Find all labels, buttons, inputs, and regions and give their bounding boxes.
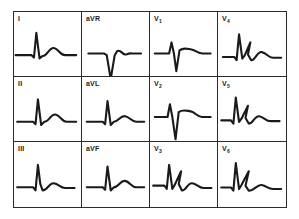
ecg-trace-v6 xyxy=(218,142,286,207)
ecg-waveform-path xyxy=(155,104,211,139)
lead-cell-v4: V4 xyxy=(218,12,286,77)
ecg-trace-i xyxy=(14,12,81,76)
lead-cell-avf: aVF xyxy=(82,142,150,207)
ecg-waveform-path xyxy=(153,165,211,191)
ecg-trace-v2 xyxy=(150,77,217,141)
ecg-waveform-path xyxy=(221,163,281,191)
ecg-waveform-path xyxy=(17,165,74,191)
lead-cell-v6: V6 xyxy=(218,142,286,207)
ecg-waveform-path xyxy=(155,42,211,71)
lead-cell-v2: V2 xyxy=(150,77,218,142)
ecg-waveform-path xyxy=(87,101,144,125)
lead-cell-i: I xyxy=(14,12,82,77)
lead-cell-v5: V5 xyxy=(218,77,286,142)
ecg-waveform-path xyxy=(88,51,141,76)
ecg-waveform-path xyxy=(221,98,279,124)
ecg-trace-v4 xyxy=(218,12,286,76)
ecg-trace-avr xyxy=(82,12,149,76)
ecg-trace-v1 xyxy=(150,12,217,76)
ecg-trace-iii xyxy=(14,142,81,207)
lead-cell-iii: III xyxy=(14,142,82,207)
lead-cell-avl: aVL xyxy=(82,77,150,142)
ecg-trace-v5 xyxy=(218,77,286,141)
lead-cell-v1: V1 xyxy=(150,12,218,77)
lead-cell-avr: aVR xyxy=(82,12,150,77)
ecg-waveform-path xyxy=(87,167,144,191)
ecg-waveform-path xyxy=(16,33,77,59)
ecg-trace-avl xyxy=(82,77,149,141)
ecg-trace-ii xyxy=(14,77,81,141)
ecg-lead-grid: IaVRV1V4IIaVLV2V5IIIaVFV3V6 xyxy=(13,11,287,208)
lead-cell-v3: V3 xyxy=(150,142,218,207)
ecg-waveform-path xyxy=(223,34,281,60)
lead-cell-ii: II xyxy=(14,77,82,142)
ecg-trace-avf xyxy=(82,142,149,207)
ecg-trace-v3 xyxy=(150,142,217,207)
ecg-waveform-path xyxy=(17,99,76,125)
